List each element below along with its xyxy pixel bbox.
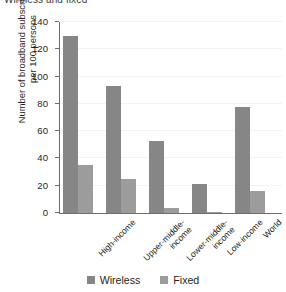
- y-tick-label: 60: [37, 125, 48, 136]
- bar-group: [106, 86, 136, 213]
- y-tick: 80: [55, 103, 59, 104]
- bar-chart: Wireless and fixed Number of broadband s…: [0, 0, 286, 292]
- y-tick: 140: [55, 21, 59, 22]
- gridline: [60, 48, 282, 49]
- bar-group: [149, 141, 179, 213]
- x-category-label-1: Upper-middle- income: [142, 218, 194, 270]
- y-axis-title-line1: Number of broadband subscriptions: [16, 0, 27, 123]
- y-tick: 40: [55, 157, 59, 158]
- y-axis-line: [59, 22, 60, 214]
- x-category-label-4: World: [262, 218, 285, 241]
- bar-group: [235, 107, 265, 213]
- legend-item-fixed[interactable]: Fixed: [160, 274, 199, 286]
- gridline: [60, 103, 282, 104]
- bar-wireless: [149, 141, 164, 213]
- bar-wireless: [63, 36, 78, 213]
- bar-group: [192, 184, 222, 213]
- x-category-label-3: Low-income: [226, 218, 266, 258]
- y-tick-label: 80: [37, 97, 48, 108]
- y-tick-label: 120: [32, 43, 48, 54]
- bar-fixed: [121, 179, 136, 213]
- y-tick-label: 40: [37, 152, 48, 163]
- y-tick-label: 140: [32, 16, 48, 27]
- y-tick: 120: [55, 48, 59, 49]
- legend-label-wireless: Wireless: [100, 274, 141, 286]
- bar-wireless: [106, 86, 121, 213]
- y-tick: 100: [55, 76, 59, 77]
- legend: Wireless Fixed: [0, 274, 286, 286]
- x-axis-line: [59, 213, 282, 214]
- y-tick: 0: [55, 212, 59, 213]
- bar-group: [63, 36, 93, 213]
- bar-fixed: [164, 208, 179, 213]
- legend-swatch-fixed-icon: [160, 276, 168, 284]
- y-tick-label: 100: [32, 70, 48, 81]
- gridline: [60, 21, 282, 22]
- bar-wireless: [235, 107, 250, 213]
- legend-swatch-wireless-icon: [87, 276, 95, 284]
- y-tick: 60: [55, 130, 59, 131]
- bar-wireless: [192, 184, 207, 213]
- y-tick-label: 20: [37, 179, 48, 190]
- y-tick-label: 0: [43, 207, 48, 218]
- legend-item-wireless[interactable]: Wireless: [87, 274, 141, 286]
- gridline: [60, 76, 282, 77]
- plot-area: 0 20 40 60 80 100 120 140: [60, 22, 282, 213]
- legend-label-fixed: Fixed: [173, 274, 199, 286]
- bar-fixed: [78, 165, 93, 213]
- y-tick: 20: [55, 185, 59, 186]
- bar-fixed: [250, 191, 265, 213]
- x-category-label-0: High-income: [97, 218, 138, 259]
- bar-fixed: [207, 212, 222, 213]
